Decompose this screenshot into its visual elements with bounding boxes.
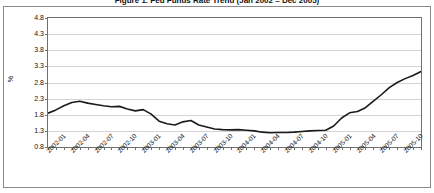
figure-page: Figure 1. Fed Funds Rate Trend (Jan 2002…: [0, 0, 434, 193]
line-series: [48, 18, 421, 147]
y-axis-tick-label: 1.3: [18, 126, 44, 133]
y-axis-tick-label: 4.3: [18, 30, 44, 37]
plot-area: [47, 17, 422, 148]
y-axis-tick-label: 3.3: [18, 62, 44, 69]
chart-title: Figure 1. Fed Funds Rate Trend (Jan 2002…: [0, 0, 434, 5]
y-axis-label: %: [4, 72, 18, 86]
y-axis-tick-label: 4.8: [18, 14, 44, 21]
series-polyline: [48, 72, 421, 133]
x-axis-tick-labels: 2002-012002-042002-072002-102003-012003-…: [47, 149, 427, 189]
y-axis-tick-label: 1.8: [18, 110, 44, 117]
y-axis-tick-label: 0.8: [18, 143, 44, 150]
y-axis-tick-label: 2.3: [18, 94, 44, 101]
y-axis-tick-label: 2.8: [18, 78, 44, 85]
y-axis-tick-labels: 4.84.33.83.32.82.31.81.30.8: [18, 10, 44, 150]
y-axis-tick-label: 3.8: [18, 46, 44, 53]
